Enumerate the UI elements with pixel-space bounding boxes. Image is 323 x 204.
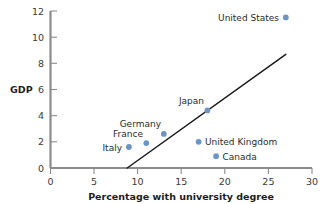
chart-canvas: 0 2 4 6 8 10 12 0 5 10 15 20 25 30 GDP P… bbox=[0, 0, 323, 204]
data-point-germany[interactable] bbox=[161, 131, 167, 137]
data-label-japan: Japan bbox=[178, 96, 204, 106]
x-tick-label-5: 5 bbox=[91, 176, 97, 187]
data-label-italy: Italy bbox=[102, 143, 122, 153]
data-point-france[interactable] bbox=[143, 140, 149, 146]
data-point-united-kingdom[interactable] bbox=[196, 139, 202, 145]
data-point-japan[interactable] bbox=[205, 108, 211, 114]
data-label-united-kingdom: United Kingdom bbox=[205, 137, 277, 147]
data-point-canada[interactable] bbox=[213, 153, 219, 159]
y-axis-title: GDP bbox=[10, 84, 33, 95]
data-point-italy[interactable] bbox=[126, 144, 132, 150]
data-label-france: France bbox=[113, 129, 143, 139]
y-tick-label-2: 2 bbox=[38, 136, 44, 147]
x-axis-title: Percentage with university degree bbox=[88, 191, 274, 202]
x-tick-label-0: 0 bbox=[47, 176, 53, 187]
y-tick-label-12: 12 bbox=[32, 6, 44, 17]
x-tick-label-15: 15 bbox=[175, 176, 187, 187]
data-label-canada: Canada bbox=[223, 152, 257, 162]
x-tick-label-30: 30 bbox=[306, 176, 318, 187]
y-tick-label-10: 10 bbox=[32, 32, 44, 43]
data-label-united-states: United States bbox=[218, 13, 279, 23]
y-tick-label-0: 0 bbox=[38, 163, 44, 174]
y-tick-label-8: 8 bbox=[38, 58, 44, 69]
x-tick-label-25: 25 bbox=[262, 176, 274, 187]
scatter-chart-container: 0 2 4 6 8 10 12 0 5 10 15 20 25 30 GDP P… bbox=[0, 0, 323, 204]
x-tick-label-10: 10 bbox=[132, 176, 144, 187]
data-point-united-states[interactable] bbox=[283, 15, 289, 21]
x-tick-label-20: 20 bbox=[219, 176, 231, 187]
y-tick-label-4: 4 bbox=[38, 110, 44, 121]
data-label-germany: Germany bbox=[120, 119, 162, 129]
y-tick-label-6: 6 bbox=[38, 84, 44, 95]
